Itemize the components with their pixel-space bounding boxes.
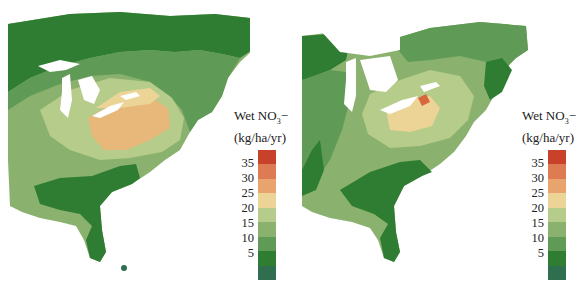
tick: 10 — [526, 231, 544, 246]
right-legend: Wet NO3− (kg/ha/yr) 35 30 25 20 15 10 5 — [522, 108, 582, 282]
legend-title-suffix: − — [569, 108, 576, 123]
tick: 15 — [526, 216, 544, 231]
legend-units: (kg/ha/yr) — [522, 130, 582, 146]
tick: 10 — [236, 231, 254, 246]
tick: 5 — [526, 246, 544, 261]
tick: 25 — [236, 186, 254, 201]
left-legend: Wet NO3− (kg/ha/yr) 35 30 25 20 15 10 5 — [234, 108, 294, 282]
legend-title-suffix: − — [281, 108, 288, 123]
tick: 35 — [236, 156, 254, 171]
left-map — [0, 0, 250, 278]
swatch-6 — [258, 237, 276, 252]
tick: 30 — [236, 171, 254, 186]
swatch-0 — [258, 150, 276, 165]
swatch-8 — [258, 266, 276, 281]
tick: 25 — [526, 186, 544, 201]
legend-colorbar: 35 30 25 20 15 10 5 — [234, 150, 294, 282]
swatch-0 — [548, 150, 566, 165]
island — [121, 265, 127, 271]
legend-title-main: Wet NO — [522, 108, 565, 123]
swatch-4 — [548, 208, 566, 223]
legend-colorbar: 35 30 25 20 15 10 5 — [522, 150, 582, 282]
legend-title: Wet NO3− — [522, 108, 582, 130]
swatch-5 — [548, 222, 566, 237]
legend-title-main: Wet NO — [234, 108, 277, 123]
swatch-3 — [258, 193, 276, 208]
swatch-5 — [258, 222, 276, 237]
left-panel: Wet NO3− (kg/ha/yr) 35 30 25 20 15 10 5 — [0, 0, 300, 278]
tick: 5 — [236, 246, 254, 261]
legend-title: Wet NO3− — [234, 108, 294, 130]
swatch-8 — [548, 266, 566, 281]
swatch-7 — [258, 251, 276, 266]
tick: 35 — [526, 156, 544, 171]
swatch-7 — [548, 251, 566, 266]
tick: 20 — [526, 201, 544, 216]
swatch-1 — [258, 164, 276, 179]
swatch-1 — [548, 164, 566, 179]
tick: 30 — [526, 171, 544, 186]
tick: 15 — [236, 216, 254, 231]
right-map — [290, 0, 540, 278]
swatch-2 — [258, 179, 276, 194]
right-panel: Wet NO3− (kg/ha/yr) 35 30 25 20 15 10 5 — [290, 0, 588, 278]
swatch-6 — [548, 237, 566, 252]
swatch-4 — [258, 208, 276, 223]
tick: 20 — [236, 201, 254, 216]
swatch-2 — [548, 179, 566, 194]
swatch-3 — [548, 193, 566, 208]
legend-units: (kg/ha/yr) — [234, 130, 294, 146]
